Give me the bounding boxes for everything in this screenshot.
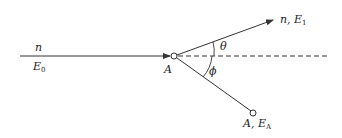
target-label: A [163, 63, 172, 76]
theta-label: θ [220, 40, 227, 53]
scattering-diagram: n E0 A θ ϕ n, E1 A, EA [0, 0, 342, 138]
recoil-nucleus-label: A, EA [242, 117, 272, 131]
target-nucleus-circle [171, 53, 177, 59]
theta-angle-arc [213, 42, 214, 56]
incident-particle-label: n [35, 41, 42, 54]
phi-label: ϕ [209, 65, 217, 78]
scattered-particle-label: n, E1 [280, 13, 307, 27]
recoil-nucleus-circle [250, 110, 256, 116]
incident-energy-label: E0 [32, 60, 46, 74]
